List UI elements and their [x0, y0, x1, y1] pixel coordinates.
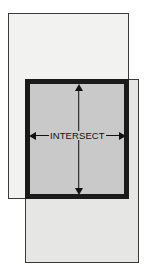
intersection-diagram: INTERSECT: [0, 0, 146, 277]
horizontal-arrow-right-segment: [106, 130, 126, 141]
horizontal-dimension-arrow: INTERSECT: [29, 129, 125, 142]
horizontal-arrow-left-segment: [29, 130, 49, 141]
horizontal-arrow-shaft-right: [106, 135, 119, 137]
intersect-label: INTERSECT: [49, 131, 106, 141]
horizontal-arrow-shaft-left: [36, 135, 49, 137]
arrow-left-icon: [29, 132, 36, 140]
arrow-up-icon: [75, 84, 83, 91]
arrow-right-icon: [119, 132, 126, 140]
arrow-down-icon: [75, 188, 83, 195]
